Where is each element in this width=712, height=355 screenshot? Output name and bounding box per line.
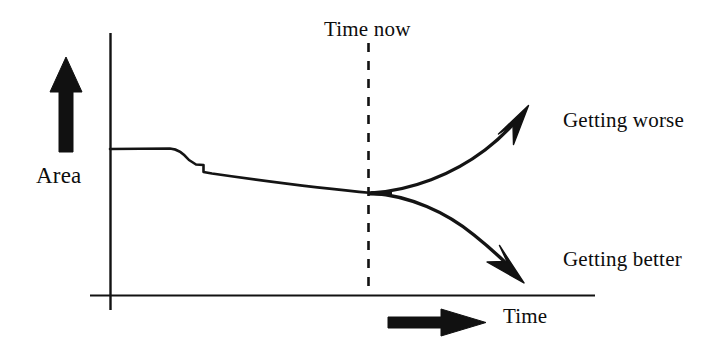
getting-worse-label: Getting worse xyxy=(563,110,684,131)
getting-worse-curve xyxy=(372,121,516,193)
x-axis-label: Time xyxy=(503,306,547,327)
diagram-canvas: Area Time now Getting worse Getting bett… xyxy=(0,0,712,355)
getting-worse-arrowhead-icon xyxy=(499,106,529,145)
time-now-label: Time now xyxy=(324,19,411,40)
getting-better-label: Getting better xyxy=(563,249,682,270)
getting-better-curve xyxy=(372,193,510,267)
history-trend-curve xyxy=(110,149,372,194)
right-arrow-icon xyxy=(388,309,486,336)
up-arrow-icon xyxy=(50,57,82,152)
trend-diagram-figure xyxy=(0,0,712,355)
y-axis-label: Area xyxy=(36,164,82,187)
